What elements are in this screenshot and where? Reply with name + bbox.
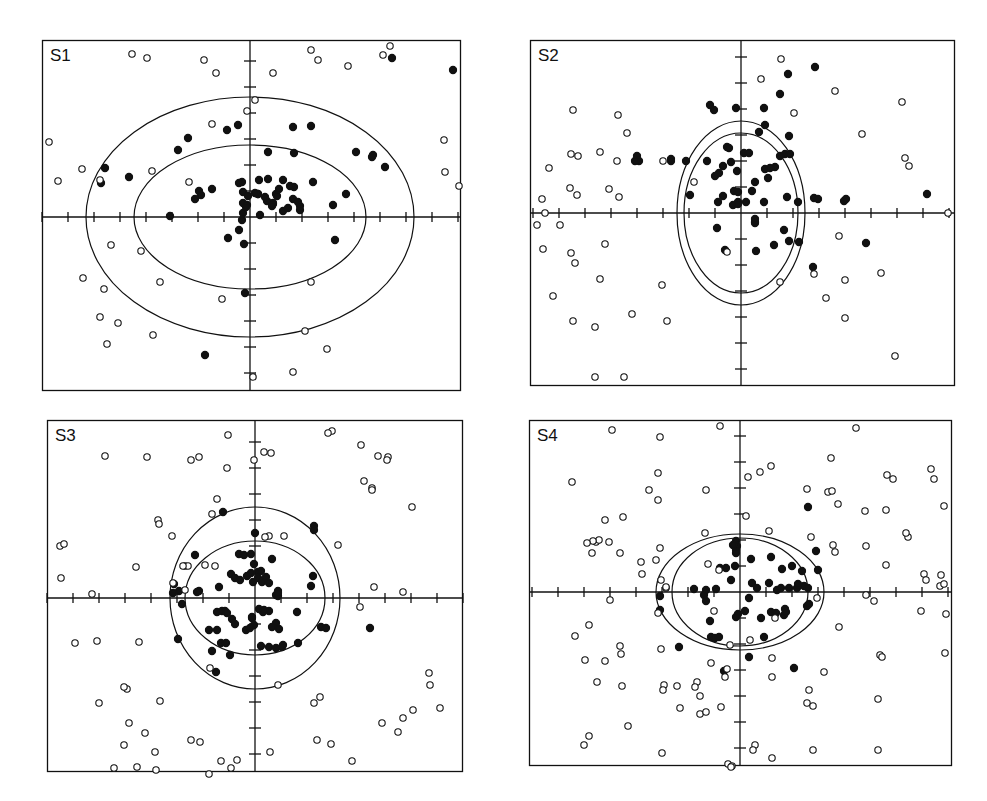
open-points	[569, 423, 949, 770]
panel-title: S2	[538, 46, 559, 66]
open-points	[46, 43, 462, 380]
panel-title: S3	[55, 426, 76, 446]
filled-points	[631, 63, 930, 270]
scatter-panel-s1: S1	[42, 40, 461, 391]
scatter-plot	[42, 40, 461, 391]
axes	[530, 40, 955, 386]
scatter-panel-s4: S4	[529, 420, 952, 766]
filled-points	[656, 503, 821, 674]
axes	[42, 40, 461, 391]
scatter-plot	[529, 420, 952, 766]
scatter-plot	[47, 420, 463, 772]
plot-frame	[43, 41, 461, 391]
scatter-panel-s3: S3	[47, 420, 463, 772]
open-points	[534, 56, 951, 380]
scatter-plot	[530, 40, 955, 386]
panel-title: S1	[50, 46, 71, 66]
scatter-panel-s2: S2	[530, 40, 955, 386]
panel-title: S4	[537, 426, 558, 446]
